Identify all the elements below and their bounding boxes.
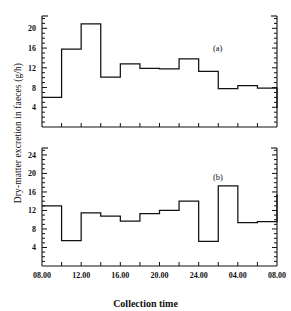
step-line-series [42,24,277,108]
panel-a [42,16,277,127]
panel-b-label: (b) [213,172,223,182]
x-axis-title: Collection time [0,298,291,309]
y-tick-label: 12 [16,206,36,215]
step-line-series [42,186,277,242]
x-tick-label: 08.00 [268,271,286,280]
y-tick-label: 16 [16,187,36,196]
x-tick-label: 04.00 [229,271,247,280]
x-tick-label: 20.00 [151,271,169,280]
step-chart-svg [0,0,291,311]
figure-container: Dry-matter excretion in faeces (g/h) Col… [0,0,291,311]
y-tick-label: 8 [16,224,36,233]
y-tick-label: 4 [16,103,36,112]
panel-b [42,148,277,266]
y-tick-label: 4 [16,243,36,252]
panel-a-label: (a) [213,43,222,53]
y-tick-label: 20 [16,24,36,33]
y-tick-label: 12 [16,63,36,72]
x-tick-label: 16.00 [111,271,129,280]
y-tick-label: 16 [16,44,36,53]
x-tick-label: 24.00 [190,271,208,280]
x-tick-label: 08.00 [33,271,51,280]
y-tick-label: 24 [16,150,36,159]
y-tick-label: 8 [16,83,36,92]
y-tick-label: 20 [16,169,36,178]
x-tick-label: 12.00 [72,271,90,280]
